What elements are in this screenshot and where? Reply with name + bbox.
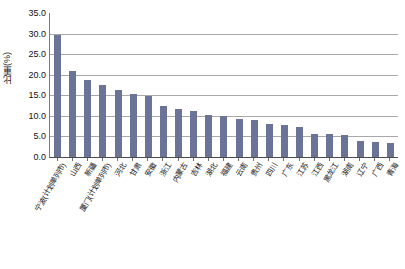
- y-axis-tick-labels: 35.030.025.020.015.010.05.00.0: [18, 9, 46, 157]
- bar-series: [50, 13, 398, 157]
- bar: [145, 96, 152, 157]
- x-axis-tick-label: 浙江: [159, 162, 173, 178]
- x-axis-tick-label: 青海: [386, 162, 400, 178]
- x-axis-tick-label-text: 贵州: [250, 162, 264, 178]
- y-axis-tick-label: 25.0: [18, 50, 46, 59]
- y-axis-tick-label: 35.0: [18, 9, 46, 18]
- bar: [311, 134, 318, 157]
- bar-slot: [353, 13, 368, 157]
- y-axis-tick-label: 10.0: [18, 111, 46, 120]
- bar-slot: [126, 13, 141, 157]
- bar: [84, 80, 91, 157]
- x-axis-tick-label-text: 安徽: [144, 162, 158, 178]
- x-axis-tick-label-text: 广东: [281, 162, 295, 178]
- y-axis-tick-label: 20.0: [18, 70, 46, 79]
- x-axis-tick-label: 甘肃: [129, 162, 143, 178]
- bar: [296, 127, 303, 157]
- x-axis-tick-label: 贵州: [250, 162, 264, 178]
- bar: [205, 115, 212, 157]
- bar-slot: [50, 13, 65, 157]
- x-axis-tick-label-text: 辽宁: [356, 162, 370, 178]
- x-axis-tick-label-text: 吉林: [190, 162, 204, 178]
- bar-slot: [216, 13, 231, 157]
- x-axis-tick-label-text: 山西: [69, 162, 83, 178]
- bar: [387, 143, 394, 157]
- x-axis-tick-label: 辽宁: [356, 162, 370, 178]
- y-axis-title: 比重(%): [2, 52, 18, 84]
- bar-slot: [141, 13, 156, 157]
- x-axis-tick-label-text: 湖南: [341, 162, 355, 178]
- x-axis-tick-label: 安徽: [144, 162, 158, 178]
- y-axis-tick-label: 0.0: [18, 153, 46, 162]
- x-axis-tick-label: 福建: [220, 162, 234, 178]
- x-axis-tick-labels: 宁波(计划单列市)山西新疆厦门(计划单列市)河北甘肃安徽浙江内蒙古吉林湖北福建云…: [49, 162, 397, 266]
- x-axis-tick-label-text: 浙江: [159, 162, 173, 178]
- x-axis-tick-label: 湖南: [341, 162, 355, 178]
- x-axis-tick-label: 河北: [114, 162, 128, 178]
- y-axis-tick-label: 15.0: [18, 91, 46, 100]
- x-axis-tick-label-text: 云南: [235, 162, 249, 178]
- x-axis-tick-label: 吉林: [190, 162, 204, 178]
- bar: [281, 125, 288, 157]
- x-axis-tick-label-text: 四川: [265, 162, 279, 178]
- plot-area: [49, 13, 398, 158]
- bar: [130, 94, 137, 157]
- bar-slot: [95, 13, 110, 157]
- bar: [372, 142, 379, 157]
- bar: [236, 119, 243, 157]
- bar-slot: [201, 13, 216, 157]
- x-axis-tick-label: 云南: [235, 162, 249, 178]
- bar: [251, 120, 258, 157]
- bar-slot: [337, 13, 352, 157]
- x-axis-tick-label-text: 宁波(计划单列市): [34, 162, 68, 213]
- x-axis-tick-label-text: 河北: [114, 162, 128, 178]
- bar-slot: [186, 13, 201, 157]
- bar: [357, 141, 364, 157]
- bar-slot: [307, 13, 322, 157]
- bar: [175, 109, 182, 157]
- x-axis-tick-label-text: 福建: [220, 162, 234, 178]
- bar-slot: [232, 13, 247, 157]
- bar: [115, 90, 122, 157]
- bar: [54, 35, 61, 157]
- bar: [326, 134, 333, 157]
- bar-slot: [383, 13, 398, 157]
- bar: [99, 85, 106, 157]
- bar-slot: [368, 13, 383, 157]
- x-axis-tick-label-text: 甘肃: [129, 162, 143, 178]
- bar-slot: [156, 13, 171, 157]
- bar-slot: [111, 13, 126, 157]
- bar: [341, 135, 348, 157]
- x-axis-tick-label-text: 青海: [386, 162, 400, 178]
- x-axis-tick-label: 广东: [281, 162, 295, 178]
- x-axis-tick-label: 湖北: [205, 162, 219, 178]
- bar-slot: [262, 13, 277, 157]
- x-axis-tick-label: 山西: [69, 162, 83, 178]
- bar: [220, 116, 227, 157]
- y-axis-tick-label: 30.0: [18, 29, 46, 38]
- bar-slot: [292, 13, 307, 157]
- bar-slot: [277, 13, 292, 157]
- x-axis-tick-label: 江苏: [296, 162, 310, 178]
- bar: [69, 71, 76, 157]
- bar: [160, 106, 167, 157]
- bar-chart: 比重(%) 35.030.025.020.015.010.05.00.0 宁波(…: [0, 0, 405, 269]
- x-axis-tick-label: 宁波(计划单列市): [34, 162, 68, 213]
- x-axis-tick-label-text: 湖北: [205, 162, 219, 178]
- bar: [190, 111, 197, 157]
- x-axis-tick-label-text: 内蒙古: [171, 162, 188, 184]
- x-axis-tick-label: 四川: [265, 162, 279, 178]
- x-axis-tick-label: 广西: [371, 162, 385, 178]
- x-axis-tick-label-text: 江苏: [296, 162, 310, 178]
- y-axis-tick-label: 5.0: [18, 132, 46, 141]
- x-axis-tick-label: 内蒙古: [171, 162, 188, 184]
- bar-slot: [65, 13, 80, 157]
- bar-slot: [247, 13, 262, 157]
- bar-slot: [322, 13, 337, 157]
- bar-slot: [171, 13, 186, 157]
- x-axis-tick-label-text: 广西: [371, 162, 385, 178]
- bar-slot: [80, 13, 95, 157]
- bar: [266, 124, 273, 157]
